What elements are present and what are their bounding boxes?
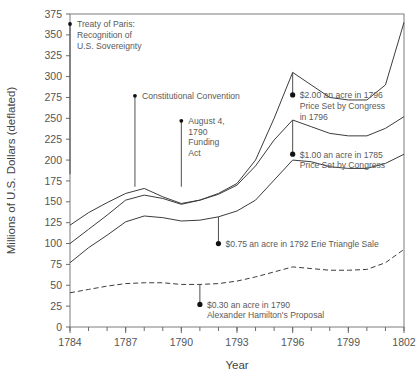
- series-line-series-2: [70, 117, 404, 244]
- annotation-text-line: August 4,: [188, 116, 224, 126]
- annotation-funding-act: August 4,1790FundingAct: [179, 116, 224, 187]
- annotation-text-line: $0.30 an acre in 1790: [207, 300, 290, 310]
- chart-container: 0255075100125150175200225250275300325350…: [0, 0, 418, 384]
- y-axis-tick-label: 75: [50, 258, 62, 270]
- y-axis-tick-label: 375: [44, 8, 62, 20]
- annotation-text-line: Constitutional Convention: [142, 91, 240, 101]
- y-axis-tick-label: 350: [44, 28, 62, 40]
- annotation-text-line: $2.00 an acre in 1796: [300, 90, 383, 100]
- annotation-hamilton-proposal-1790: $0.30 an acre in 1790Alexander Hamilton'…: [197, 284, 324, 320]
- annotation-one-dollar-acre-1785: $1.00 an acre in 1785Price Set by Congre…: [290, 120, 385, 170]
- x-axis: 1784178717901793179617991802: [58, 327, 416, 348]
- annotation-text-line: in 1796: [300, 112, 328, 122]
- annotation-text-line: 1790: [188, 127, 207, 137]
- y-axis-tick-label: 175: [44, 175, 62, 187]
- y-axis-tick-label: 25: [50, 300, 62, 312]
- y-axis-tick-label: 0: [56, 321, 62, 333]
- historical-land-price-line-chart: 0255075100125150175200225250275300325350…: [0, 0, 418, 384]
- annotation-marker-dot: [216, 241, 221, 246]
- x-axis-tick-label: 1790: [170, 336, 194, 348]
- annotation-constitutional-convention: Constitutional Convention: [133, 91, 240, 187]
- annotation-marker-dot: [68, 22, 72, 26]
- annotation-text-line: $1.00 an acre in 1785: [300, 150, 383, 160]
- x-axis-tick-label: 1784: [58, 336, 82, 348]
- y-axis-tick-label: 250: [44, 112, 62, 124]
- y-axis-tick-label: 100: [44, 237, 62, 249]
- annotation-text-line: Recognition of: [77, 30, 133, 40]
- annotation-marker-dot: [290, 92, 295, 97]
- annotation-text-line: Price Set by Congress: [300, 160, 386, 170]
- x-axis-title: Year: [225, 359, 248, 371]
- y-axis-tick-label: 225: [44, 133, 62, 145]
- annotation-erie-triangle-sale-1792: $0.75 an acre in 1792 Erie Triangle Sale: [216, 217, 379, 249]
- series-line-series-4-dashed: [70, 249, 404, 292]
- x-axis-tick-label: 1796: [281, 336, 305, 348]
- y-axis-tick-label: 200: [44, 154, 62, 166]
- annotation-text-line: $0.75 an acre in 1792 Erie Triangle Sale: [225, 239, 379, 249]
- annotation-marker-dot: [133, 94, 137, 98]
- x-axis-tick-label: 1802: [392, 336, 416, 348]
- annotation-marker-dot: [179, 119, 183, 123]
- y-axis-tick-label: 50: [50, 279, 62, 291]
- series-line-series-1-upper: [70, 22, 404, 225]
- annotation-marker-dot: [197, 302, 202, 307]
- annotation-treaty-of-paris: Treaty of Paris:Recognition ofU.S. Sover…: [68, 19, 142, 174]
- y-axis: 0255075100125150175200225250275300325350…: [44, 8, 70, 333]
- y-axis-title: Millions of U.S. Dollars (deflated): [5, 87, 17, 255]
- y-axis-tick-label: 150: [44, 195, 62, 207]
- y-axis-tick-label: 325: [44, 49, 62, 61]
- x-axis-tick-label: 1787: [114, 336, 138, 348]
- x-axis-tick-label: 1799: [337, 336, 361, 348]
- y-axis-tick-label: 125: [44, 216, 62, 228]
- annotation-text-line: U.S. Sovereignty: [77, 41, 142, 51]
- annotation-text-line: Treaty of Paris:: [77, 19, 135, 29]
- y-axis-tick-label: 300: [44, 70, 62, 82]
- annotation-text-line: Alexander Hamilton's Proposal: [207, 310, 324, 320]
- annotation-text-line: Act: [188, 148, 201, 158]
- plot-frame: [70, 14, 404, 327]
- y-axis-tick-label: 275: [44, 91, 62, 103]
- annotation-text-line: Funding: [188, 137, 219, 147]
- x-axis-tick-label: 1793: [225, 336, 249, 348]
- annotations-group: Treaty of Paris:Recognition ofU.S. Sover…: [68, 19, 385, 320]
- annotation-text-line: Price Set by Congress: [300, 101, 386, 111]
- annotation-marker-dot: [290, 152, 295, 157]
